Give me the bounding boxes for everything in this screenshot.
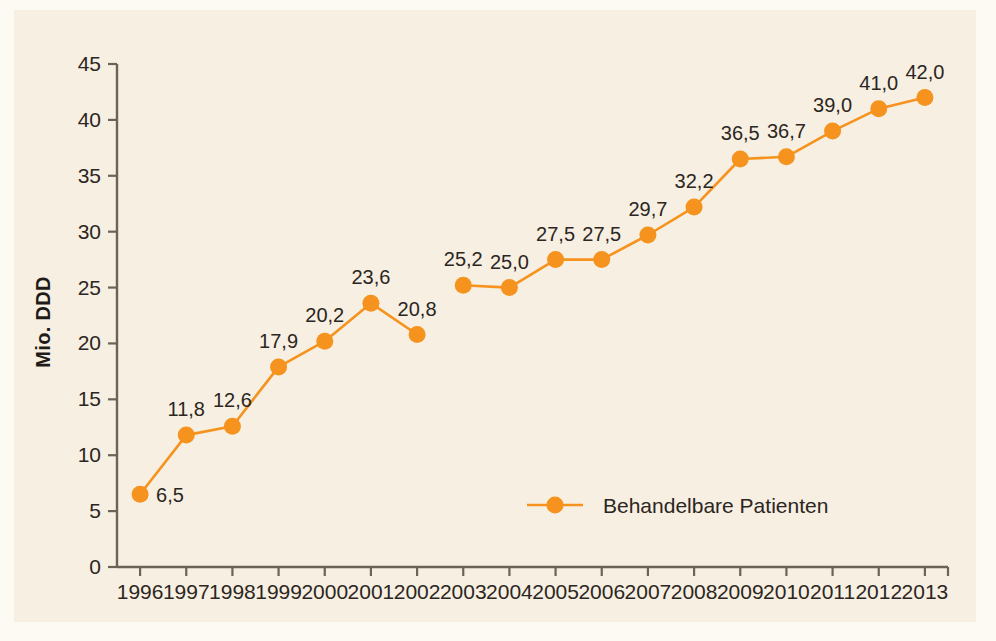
data-point-marker[interactable] bbox=[686, 199, 703, 216]
y-tick-label: 20 bbox=[78, 331, 101, 354]
point-value-label: 11,8 bbox=[168, 398, 205, 420]
x-tick-label: 2000 bbox=[301, 580, 348, 603]
series-markers bbox=[132, 89, 934, 503]
x-tick-label: 2012 bbox=[855, 580, 902, 603]
x-tick-label: 2003 bbox=[440, 580, 487, 603]
point-value-label: 25,2 bbox=[444, 248, 483, 270]
series-line-segment bbox=[463, 98, 925, 288]
y-tick-label: 5 bbox=[89, 499, 101, 522]
point-value-label: 36,5 bbox=[721, 122, 760, 144]
series-lines bbox=[140, 98, 925, 495]
point-value-label: 36,7 bbox=[767, 120, 806, 142]
point-value-label: 12,6 bbox=[213, 389, 252, 411]
point-value-label: 17,9 bbox=[259, 330, 298, 352]
data-point-marker[interactable] bbox=[178, 427, 195, 444]
data-point-marker[interactable] bbox=[916, 89, 933, 106]
point-value-label: 23,6 bbox=[351, 266, 390, 288]
data-point-marker[interactable] bbox=[455, 277, 472, 294]
x-tick-label: 1996 bbox=[117, 580, 164, 603]
data-point-marker[interactable] bbox=[778, 148, 795, 165]
x-tick-label: 2005 bbox=[532, 580, 579, 603]
point-value-label: 39,0 bbox=[813, 94, 852, 116]
x-tick-label: 2010 bbox=[763, 580, 810, 603]
x-tick-label: 2002 bbox=[394, 580, 441, 603]
chart-figure: 051015202530354045 199619971998199920002… bbox=[0, 0, 996, 641]
data-point-marker[interactable] bbox=[132, 486, 149, 503]
point-value-label: 20,8 bbox=[398, 298, 437, 320]
x-tick-label: 2013 bbox=[902, 580, 949, 603]
line-chart: 051015202530354045 199619971998199920002… bbox=[0, 0, 996, 641]
legend-marker-icon bbox=[547, 497, 564, 514]
data-point-marker[interactable] bbox=[224, 418, 241, 435]
point-value-label: 42,0 bbox=[905, 61, 944, 83]
data-point-marker[interactable] bbox=[639, 227, 656, 244]
legend-label[interactable]: Behandelbare Patienten bbox=[603, 494, 828, 517]
x-axis-ticks: 1996199719981999200020012002200320042005… bbox=[117, 567, 949, 603]
x-tick-label: 2006 bbox=[578, 580, 625, 603]
x-tick-label: 2004 bbox=[486, 580, 533, 603]
point-value-label: 6,5 bbox=[156, 484, 184, 506]
point-value-label: 32,2 bbox=[675, 170, 714, 192]
y-tick-label: 25 bbox=[78, 276, 101, 299]
point-value-label: 27,5 bbox=[582, 223, 621, 245]
y-axis-ticks: 051015202530354045 bbox=[78, 52, 117, 578]
data-point-marker[interactable] bbox=[501, 279, 518, 296]
x-tick-label: 2008 bbox=[671, 580, 718, 603]
data-point-marker[interactable] bbox=[547, 251, 564, 268]
data-point-marker[interactable] bbox=[316, 333, 333, 350]
point-value-label: 27,5 bbox=[536, 223, 575, 245]
point-value-label: 20,2 bbox=[305, 304, 344, 326]
data-point-marker[interactable] bbox=[870, 100, 887, 117]
data-point-marker[interactable] bbox=[824, 123, 841, 140]
data-point-marker[interactable] bbox=[732, 151, 749, 168]
y-tick-label: 30 bbox=[78, 220, 101, 243]
chart-legend: Behandelbare Patienten bbox=[527, 494, 828, 517]
x-tick-label: 2009 bbox=[717, 580, 764, 603]
y-tick-label: 15 bbox=[78, 387, 101, 410]
y-tick-label: 35 bbox=[78, 164, 101, 187]
x-tick-label: 2001 bbox=[348, 580, 395, 603]
y-axis-title: Mio. DDD bbox=[32, 276, 54, 367]
x-tick-label: 2011 bbox=[810, 580, 855, 603]
x-tick-label: 1997 bbox=[163, 580, 210, 603]
x-tick-label: 2007 bbox=[625, 580, 672, 603]
y-tick-label: 45 bbox=[78, 52, 101, 75]
point-value-label: 41,0 bbox=[859, 72, 898, 94]
x-tick-label: 1998 bbox=[209, 580, 256, 603]
point-value-label: 29,7 bbox=[628, 198, 667, 220]
y-tick-label: 10 bbox=[78, 443, 101, 466]
data-point-marker[interactable] bbox=[409, 326, 426, 343]
point-value-label: 25,0 bbox=[490, 251, 529, 273]
axes bbox=[117, 64, 948, 567]
y-tick-label: 0 bbox=[89, 555, 101, 578]
data-point-marker[interactable] bbox=[270, 358, 287, 375]
y-tick-label: 40 bbox=[78, 108, 101, 131]
data-point-marker[interactable] bbox=[362, 295, 379, 312]
x-tick-label: 1999 bbox=[255, 580, 302, 603]
data-point-marker[interactable] bbox=[593, 251, 610, 268]
